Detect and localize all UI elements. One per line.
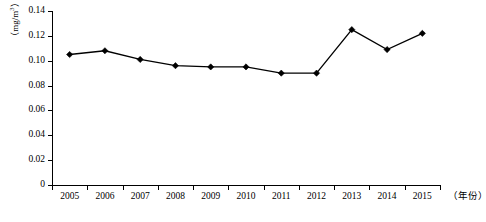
data-point-marker xyxy=(243,64,249,70)
x-axis-tick xyxy=(299,185,300,190)
y-axis-unit-text: （mg/m xyxy=(10,11,20,41)
y-axis-tick-label: 0.14 xyxy=(28,6,45,16)
data-point-marker xyxy=(208,64,214,70)
x-axis-tick-label: 2011 xyxy=(272,192,291,202)
x-axis-tick xyxy=(193,185,194,190)
x-axis-tick xyxy=(405,185,406,190)
x-axis-tick xyxy=(123,185,124,190)
y-axis-tick-label: 0.02 xyxy=(28,155,45,165)
x-axis-tick xyxy=(52,185,53,190)
series-group xyxy=(52,11,440,185)
x-axis-tick-label: 2013 xyxy=(342,192,361,202)
x-axis-tick-label: 2012 xyxy=(307,192,326,202)
y-axis-unit-label: （mg/m3） xyxy=(9,0,20,48)
y-axis-unit-close: ） xyxy=(10,0,20,7)
x-axis-tick-label: 2008 xyxy=(166,192,185,202)
x-axis-tick-label: 2007 xyxy=(131,192,150,202)
x-axis-tick-label: 2005 xyxy=(60,192,79,202)
data-point-marker xyxy=(172,63,178,69)
x-axis-tick xyxy=(264,185,265,190)
data-point-marker xyxy=(278,70,284,76)
y-axis-tick-label: 0.04 xyxy=(28,131,45,141)
y-axis-tick-label: 0.10 xyxy=(28,56,45,66)
data-point-marker xyxy=(419,30,425,36)
x-axis-tick xyxy=(87,185,88,190)
x-axis-tick-label: 2010 xyxy=(237,192,256,202)
y-axis-tick-label: 0.12 xyxy=(28,31,45,41)
x-axis-unit-label: （年份） xyxy=(448,192,486,202)
x-axis-line xyxy=(52,185,440,186)
data-point-marker xyxy=(67,51,73,57)
y-axis-tick-label: 0.06 xyxy=(28,106,45,116)
x-axis-tick xyxy=(228,185,229,190)
data-point-marker xyxy=(102,48,108,54)
data-point-marker xyxy=(384,46,390,52)
series-markers xyxy=(67,27,426,77)
x-axis-tick xyxy=(158,185,159,190)
x-axis-tick-label: 2009 xyxy=(201,192,220,202)
x-axis-tick-label: 2006 xyxy=(95,192,114,202)
y-axis-unit-superscript: 3 xyxy=(8,7,15,10)
y-axis-tick-label: 0 xyxy=(40,180,45,190)
x-axis-tick xyxy=(440,185,441,190)
x-axis-tick xyxy=(369,185,370,190)
data-point-marker xyxy=(137,56,143,62)
x-axis-tick xyxy=(334,185,335,190)
x-axis-tick-label: 2015 xyxy=(413,192,432,202)
x-axis-tick-label: 2014 xyxy=(378,192,397,202)
plot-area: 00.020.040.060.080.100.120.14 2005200620… xyxy=(52,11,440,185)
y-axis-tick-label: 0.08 xyxy=(28,81,45,91)
